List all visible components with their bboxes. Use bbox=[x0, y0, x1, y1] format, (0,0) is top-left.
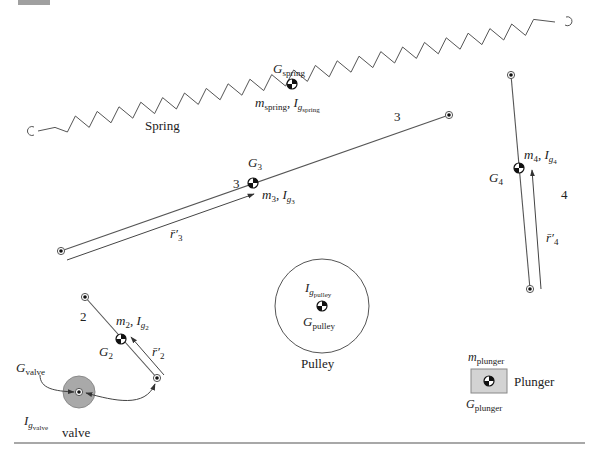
link-4-body bbox=[511, 75, 530, 289]
link-4-cg-label: G4 bbox=[489, 170, 503, 187]
spring-cg-icon bbox=[287, 79, 297, 89]
pin-center bbox=[447, 113, 451, 117]
pulley-cg-icon bbox=[317, 301, 327, 311]
cg-quadrant bbox=[322, 301, 327, 306]
link-2-pin-top-icon bbox=[81, 293, 88, 300]
link-3-cg-icon bbox=[248, 178, 258, 188]
pulley-label: Pulley bbox=[301, 356, 335, 371]
plunger-cg-icon bbox=[484, 376, 494, 386]
link-3-pin-left-icon bbox=[57, 247, 64, 254]
link-2: 2 G2 m2, Ig2 r̄′2 bbox=[80, 293, 164, 381]
link-2-cg-icon bbox=[116, 334, 126, 344]
cg-quadrant bbox=[292, 79, 297, 84]
spring-hook-right-icon bbox=[565, 17, 572, 26]
link-2-vector-label: r̄′2 bbox=[152, 344, 164, 361]
pin-center bbox=[59, 249, 63, 253]
spring: Gspring mspring, Igspring Spring bbox=[27, 17, 572, 136]
valve-inertia-label: Igvalve bbox=[23, 413, 48, 432]
spring-mass-inertia-label: mspring, Igspring bbox=[255, 95, 320, 114]
link-3-number-end: 3 bbox=[394, 109, 401, 124]
valve-to-link2-leader-arrow bbox=[86, 384, 155, 401]
pin-center bbox=[528, 287, 532, 291]
link-3-pin-right-icon bbox=[445, 111, 452, 118]
link-3-vector-label: r̄′3 bbox=[170, 226, 183, 243]
link-4-number: 4 bbox=[561, 187, 568, 202]
spring-hook-left-icon bbox=[27, 127, 34, 136]
link-3-number-cg: 3 bbox=[233, 176, 240, 191]
pin-center bbox=[509, 73, 513, 77]
link-4-pin-top-icon bbox=[507, 71, 514, 78]
link-2-cg-label: G2 bbox=[99, 344, 113, 361]
cg-quadrant bbox=[514, 168, 519, 173]
link-4-vector-label: r̄′4 bbox=[546, 230, 559, 247]
valve: Gvalve Igvalve valve bbox=[16, 360, 155, 440]
cg-quadrant bbox=[317, 306, 322, 311]
cg-quadrant bbox=[121, 334, 126, 339]
spring-label: Spring bbox=[145, 118, 180, 133]
pin-center bbox=[155, 376, 159, 380]
link-4-cg-icon bbox=[514, 163, 524, 173]
cg-quadrant bbox=[519, 163, 524, 168]
cg-quadrant bbox=[287, 84, 292, 89]
pulley-inertia-label: Igpulley bbox=[304, 280, 332, 299]
corner-tab bbox=[18, 0, 50, 5]
link-2-number: 2 bbox=[80, 309, 87, 324]
pin-center bbox=[77, 390, 81, 394]
cam-follower-dynamic-model-diagram: Gspring mspring, Igspring Spring 3 3 G3 … bbox=[0, 0, 598, 455]
link-4-pin-bottom-icon bbox=[526, 285, 533, 292]
cg-quadrant bbox=[248, 183, 253, 188]
link-2-pin-bottom-icon bbox=[153, 374, 160, 381]
cg-quadrant bbox=[253, 178, 258, 183]
link-4-mass-inertia-label: m4, Ig4 bbox=[524, 147, 557, 166]
plunger: mplunger Gplunger Plunger bbox=[466, 350, 555, 413]
link-3-mass-inertia-label: m3, Ig3 bbox=[262, 187, 295, 206]
valve-pin-icon bbox=[75, 388, 82, 395]
cg-quadrant bbox=[116, 339, 121, 344]
pulley: Igpulley Gpulley Pulley bbox=[275, 259, 369, 371]
link-4: 4 G4 m4, Ig4 r̄′4 bbox=[489, 71, 568, 292]
valve-label: valve bbox=[62, 425, 90, 440]
pin-center bbox=[83, 295, 87, 299]
link-3-cg-label: G3 bbox=[248, 155, 262, 172]
link-3: 3 3 G3 m3, Ig3 r̄′3 bbox=[57, 109, 452, 260]
plunger-mass-label: mplunger bbox=[468, 350, 504, 366]
link-2-mass-inertia-label: m2, Ig2 bbox=[116, 313, 149, 332]
link-4-position-vector-arrow bbox=[532, 170, 541, 289]
spring-cg-label: Gspring bbox=[273, 61, 305, 78]
plunger-cg-label: Gplunger bbox=[466, 397, 502, 413]
pulley-cg-label: Gpulley bbox=[303, 314, 335, 331]
valve-cg-label: Gvalve bbox=[16, 360, 45, 377]
plunger-label: Plunger bbox=[514, 374, 555, 389]
link-3-position-vector-arrow bbox=[67, 194, 254, 260]
